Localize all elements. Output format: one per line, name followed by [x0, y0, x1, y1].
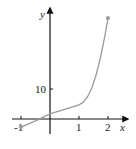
function-plot: -112 10 x y: [0, 0, 136, 149]
y-tick-label: 10: [35, 83, 47, 95]
x-tick-label: 1: [76, 121, 82, 133]
y-axis-label: y: [39, 8, 45, 20]
endpoint-dot: [19, 125, 23, 129]
endpoint-dot: [106, 16, 110, 20]
x-axis-label: x: [119, 121, 125, 133]
x-tick-label: 2: [105, 121, 111, 133]
function-curve: [21, 18, 108, 127]
